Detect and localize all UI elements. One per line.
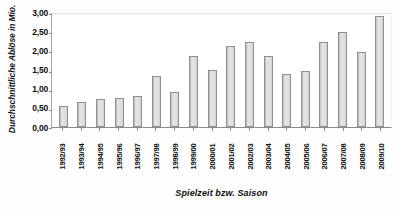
x-label-slot: 2002/03 xyxy=(240,132,259,180)
x-axis-tickmark xyxy=(155,128,156,131)
x-axis-tick-label: 1993/94 xyxy=(77,134,86,180)
x-axis-tickmark xyxy=(230,128,231,131)
bar-slot xyxy=(277,14,296,127)
x-label-slot: 2006/07 xyxy=(315,132,334,180)
x-label-slot: 1994/95 xyxy=(90,132,109,180)
bar[interactable] xyxy=(59,106,68,127)
x-label-slot: 1993/94 xyxy=(72,132,91,180)
x-axis-tickmark xyxy=(212,128,213,131)
bar[interactable] xyxy=(133,96,142,127)
x-axis-tickmark xyxy=(268,128,269,131)
bar[interactable] xyxy=(338,32,347,127)
y-axis-tickmark xyxy=(49,52,52,53)
x-axis-tick-label: 2006/07 xyxy=(320,134,329,180)
x-axis-tick-label: 1997/98 xyxy=(151,134,160,180)
x-label-slot: 2000/01 xyxy=(203,132,222,180)
x-axis-tickmark xyxy=(324,128,325,131)
plot-area xyxy=(51,13,392,128)
bar-slot xyxy=(352,14,371,127)
x-axis-tickmark xyxy=(62,128,63,131)
x-axis-tick-label: 1994/95 xyxy=(95,134,104,180)
x-label-slot: 2001/02 xyxy=(221,132,240,180)
x-axis-tick-label: 2005/06 xyxy=(301,134,310,180)
bar[interactable] xyxy=(96,99,105,127)
bar-slot xyxy=(203,14,222,127)
x-axis-tickmark xyxy=(99,128,100,131)
y-axis-tick-label: 1,50 xyxy=(19,65,48,76)
x-axis-tick-label: 1995/96 xyxy=(114,134,123,180)
x-axis-tick-label: 1996/97 xyxy=(133,134,142,180)
bar-slot xyxy=(91,14,110,127)
bar[interactable] xyxy=(264,56,273,127)
x-axis-tick-label: 2009/10 xyxy=(376,134,385,180)
x-axis-tick-label: 2004/05 xyxy=(282,134,291,180)
x-axis-tick-label: 2008/09 xyxy=(357,134,366,180)
x-axis-tick-label: 2000/01 xyxy=(208,134,217,180)
bar[interactable] xyxy=(189,56,198,127)
x-label-slot: 1997/98 xyxy=(147,132,166,180)
bar-slot xyxy=(221,14,240,127)
y-axis-tickmark xyxy=(49,91,52,92)
bar-slot xyxy=(296,14,315,127)
x-label-slot: 2003/04 xyxy=(259,132,278,180)
x-label-slot: 1999/00 xyxy=(184,132,203,180)
x-axis-tick-labels: 1992/931993/941994/951995/961996/971997/… xyxy=(51,132,392,180)
y-axis-tick-label: 2,00 xyxy=(19,46,48,57)
y-axis-tick-label: 3,00 xyxy=(19,8,48,19)
bar-slot xyxy=(333,14,352,127)
bar[interactable] xyxy=(152,76,161,127)
y-axis-tick-label: 0,50 xyxy=(19,103,48,114)
y-axis-tickmark xyxy=(49,14,52,15)
bar-chart: Durchschnittliche Ablöse in Mio. 0,000,5… xyxy=(0,0,398,210)
x-axis-tickmark xyxy=(81,128,82,131)
bar-slot xyxy=(54,14,73,127)
x-label-slot: 1992/93 xyxy=(53,132,72,180)
x-axis-tickmark xyxy=(137,128,138,131)
bar[interactable] xyxy=(301,71,310,127)
bar-slot xyxy=(315,14,334,127)
x-axis-tick-label: 2003/04 xyxy=(264,134,273,180)
bars-layer xyxy=(52,14,391,127)
bar-slot xyxy=(110,14,129,127)
x-axis-tickmark xyxy=(361,128,362,131)
bar-slot xyxy=(128,14,147,127)
x-label-slot: 2009/10 xyxy=(371,132,390,180)
x-axis-tick-label: 2001/02 xyxy=(226,134,235,180)
bar-slot xyxy=(240,14,259,127)
x-axis-tickmark xyxy=(174,128,175,131)
bar[interactable] xyxy=(357,52,366,127)
x-axis-tickmark xyxy=(193,128,194,131)
x-axis-tick-label: 2002/03 xyxy=(245,134,254,180)
bar-slot xyxy=(184,14,203,127)
x-label-slot: 2008/09 xyxy=(353,132,372,180)
x-axis-tick-label: 1992/93 xyxy=(58,134,67,180)
x-label-slot: 1998/99 xyxy=(165,132,184,180)
y-axis-tick-label: 2,50 xyxy=(19,27,48,38)
x-axis-tickmark xyxy=(118,128,119,131)
bar-slot xyxy=(259,14,278,127)
bar[interactable] xyxy=(170,92,179,127)
x-label-slot: 1996/97 xyxy=(128,132,147,180)
x-axis-tick-label: 2007/08 xyxy=(339,134,348,180)
bar[interactable] xyxy=(282,74,291,127)
bar[interactable] xyxy=(115,98,124,127)
x-axis-tickmark xyxy=(380,128,381,131)
bar[interactable] xyxy=(208,70,217,127)
x-axis-tickmark xyxy=(343,128,344,131)
y-axis-tick-label: 0,00 xyxy=(19,123,48,134)
bar-slot xyxy=(73,14,92,127)
x-axis-tickmark xyxy=(249,128,250,131)
bar[interactable] xyxy=(319,42,328,127)
bar[interactable] xyxy=(226,46,235,127)
y-axis-tick-labels: 0,000,501,001,502,002,503,00 xyxy=(19,7,48,135)
bar[interactable] xyxy=(77,102,86,127)
x-label-slot: 2004/05 xyxy=(278,132,297,180)
x-axis-tick-label: 1998/99 xyxy=(170,134,179,180)
bar[interactable] xyxy=(375,16,384,127)
x-axis-tickmark xyxy=(286,128,287,131)
bar[interactable] xyxy=(245,42,254,127)
y-axis-tickmark xyxy=(49,33,52,34)
x-label-slot: 2005/06 xyxy=(296,132,315,180)
bar-slot xyxy=(166,14,185,127)
x-axis-tickmark xyxy=(305,128,306,131)
